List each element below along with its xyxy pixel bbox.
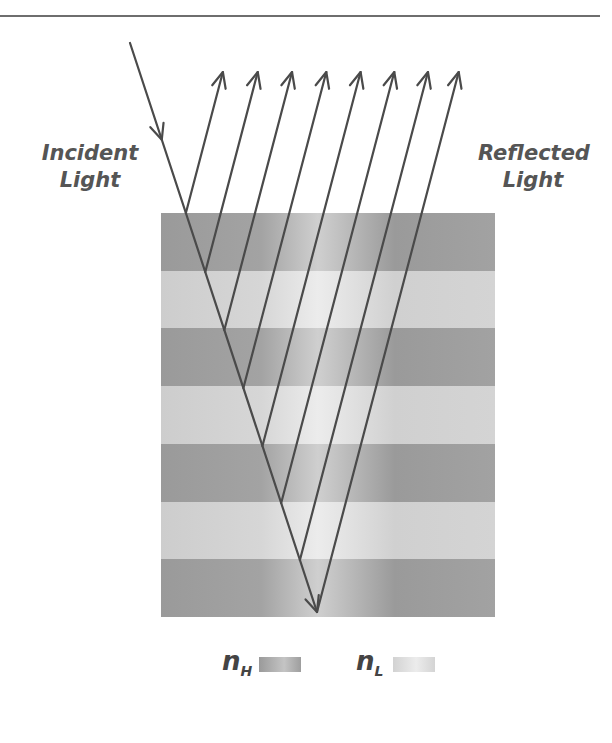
legend-nH-swatch bbox=[259, 657, 301, 672]
reflected-ray bbox=[186, 72, 223, 213]
reflected-ray bbox=[205, 72, 257, 272]
legend-nL-symbol: nL bbox=[356, 646, 383, 679]
reflected-ray bbox=[224, 72, 292, 330]
legend-nH-symbol: nH bbox=[222, 646, 252, 679]
legend-nL-swatch bbox=[393, 657, 435, 672]
reflected-ray bbox=[243, 72, 326, 388]
incident-ray bbox=[130, 43, 317, 612]
reflected-ray bbox=[281, 72, 394, 503]
reflected-ray bbox=[300, 72, 428, 560]
light-rays bbox=[0, 0, 612, 743]
